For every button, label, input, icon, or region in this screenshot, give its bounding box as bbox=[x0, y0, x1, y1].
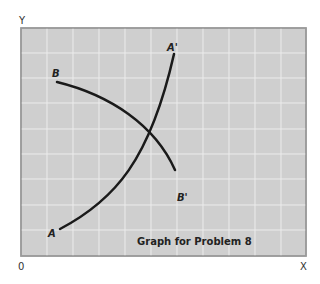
y-axis-label: Y bbox=[18, 15, 26, 26]
origin-label: 0 bbox=[18, 261, 24, 272]
x-axis-label: X bbox=[300, 261, 307, 272]
label-b: B bbox=[52, 68, 60, 79]
plot-area bbox=[21, 28, 306, 256]
label-a-prime: A' bbox=[166, 42, 178, 53]
graph: B B' A A' Graph for Problem 8 Y X 0 bbox=[0, 0, 320, 284]
label-b-prime: B' bbox=[177, 192, 188, 203]
label-a: A bbox=[47, 228, 56, 239]
graph-caption: Graph for Problem 8 bbox=[137, 236, 252, 247]
